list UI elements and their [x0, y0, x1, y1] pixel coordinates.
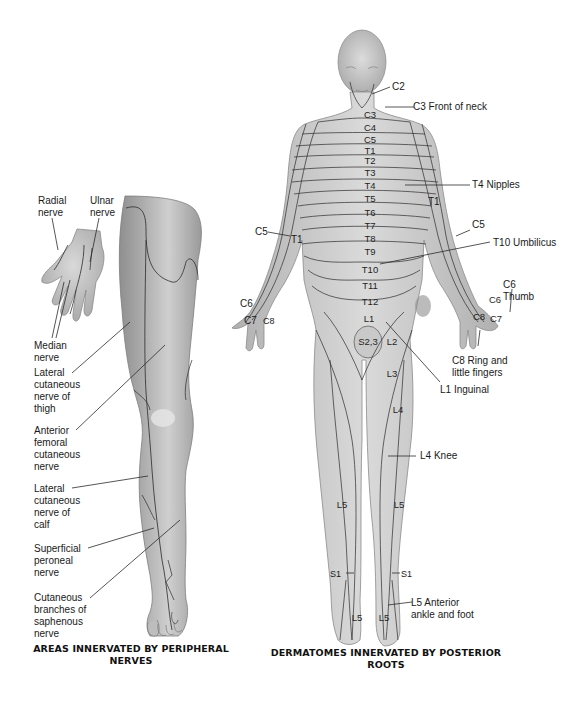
- label-sp-line2: peroneal: [34, 555, 81, 567]
- callout-s1-right-leg: S1: [401, 568, 412, 580]
- label-lct-line4: thigh: [34, 403, 80, 415]
- segment-l3: L3: [387, 369, 398, 379]
- callout-c6-left-hand: C6: [240, 298, 253, 310]
- callout-t1-left-arm: T1: [291, 234, 303, 246]
- segment-t3: T3: [364, 168, 375, 178]
- segment-l2: L2: [387, 337, 398, 347]
- label-superficial-peroneal: Superficial peroneal nerve: [34, 543, 81, 579]
- label-lcc-line2: cutaneous: [34, 495, 80, 507]
- callout-c2: C2: [392, 81, 405, 93]
- label-sb-line2: branches of: [34, 604, 86, 616]
- label-sp-line3: nerve: [34, 567, 81, 579]
- label-sp-line1: Superficial: [34, 543, 81, 555]
- left-caption: AREAS INNERVATED BY PERIPHERAL NERVES: [20, 643, 242, 667]
- segment-c5: C5: [364, 135, 376, 145]
- label-median-line1: Median: [34, 340, 67, 352]
- label-lateral-cutaneous-calf: Lateral cutaneous nerve of calf: [34, 483, 80, 531]
- callout-l5-anterior-ankle-foot: L5 Anterior ankle and foot: [411, 597, 474, 621]
- callout-c5-left-arm: C5: [255, 226, 268, 238]
- segment-c8-right-hand: C8: [473, 312, 485, 322]
- segment-l1: L1: [364, 314, 375, 324]
- callout-c7-left-hand: C7: [244, 315, 257, 327]
- anatomy-artwork: [0, 0, 585, 705]
- callout-c6-thumb: C6 Thumb: [503, 279, 534, 303]
- label-anterior-femoral: Anterior femoral cutaneous nerve: [34, 425, 80, 473]
- callout-l5-line2: ankle and foot: [411, 609, 474, 621]
- segment-t4: T4: [364, 181, 375, 191]
- label-lateral-cutaneous-thigh: Lateral cutaneous nerve of thigh: [34, 367, 80, 415]
- label-sb-line4: nerve: [34, 628, 86, 640]
- label-lct-line3: nerve of: [34, 391, 80, 403]
- label-median-line2: nerve: [34, 352, 67, 364]
- callout-c6-thumb-line1: C6: [503, 279, 534, 291]
- segment-l5-left-leg: L5: [337, 500, 348, 510]
- callout-t10-umbilicus: T10 Umbilicus: [493, 237, 556, 249]
- callout-c3-front-of-neck: C3 Front of neck: [413, 101, 487, 113]
- label-radial-line2: nerve: [38, 207, 66, 219]
- segment-t5: T5: [364, 194, 375, 204]
- label-lcc-line4: calf: [34, 519, 80, 531]
- callout-c8-line1: C8 Ring and: [452, 355, 508, 367]
- callout-t4-nipples: T4 Nipples: [472, 179, 520, 191]
- label-lct-line2: cutaneous: [34, 379, 80, 391]
- dermatome-figure: Radial nerve Ulnar nerve Median nerve La…: [0, 0, 585, 705]
- segment-l5-right-foot: L5: [379, 613, 390, 623]
- label-lcc-line1: Lateral: [34, 483, 80, 495]
- callout-l4-knee: L4 Knee: [420, 450, 457, 462]
- label-sb-line1: Cutaneous: [34, 592, 86, 604]
- label-median-nerve: Median nerve: [34, 340, 67, 364]
- label-ulnar-line1: Ulnar: [90, 195, 115, 207]
- label-afc-line1: Anterior: [34, 425, 80, 437]
- segment-t10: T10: [362, 265, 378, 275]
- callout-l1-inguinal: L1 Inguinal: [440, 384, 489, 396]
- label-afc-line3: cutaneous: [34, 449, 80, 461]
- segment-t12: T12: [362, 297, 378, 307]
- label-ulnar-line2: nerve: [90, 207, 115, 219]
- segment-t6: T6: [364, 208, 375, 218]
- segment-c7-right-hand: C7: [490, 314, 502, 324]
- segment-t11: T11: [362, 281, 378, 291]
- segment-l5-right-leg: L5: [394, 500, 405, 510]
- label-afc-line2: femoral: [34, 437, 80, 449]
- segment-c6-right-hand: C6: [489, 295, 501, 305]
- left-caption-line2: NERVES: [20, 655, 242, 667]
- segment-t2: T2: [364, 156, 375, 166]
- callout-c8-line2: little fingers: [452, 367, 508, 379]
- hand-illustration: [42, 218, 104, 338]
- segment-t9: T9: [364, 247, 375, 257]
- label-afc-line4: nerve: [34, 461, 80, 473]
- callout-t1-right-arm: T1: [428, 196, 440, 208]
- label-radial-line1: Radial: [38, 195, 66, 207]
- callout-c5-right-arm: C5: [472, 219, 485, 231]
- label-ulnar-nerve: Ulnar nerve: [90, 195, 115, 219]
- callout-c8-left-hand: C8: [263, 315, 275, 327]
- right-caption-line2: ROOTS: [262, 659, 510, 671]
- segment-t7: T7: [364, 221, 375, 231]
- segment-l4: L4: [393, 405, 404, 415]
- label-lct-line1: Lateral: [34, 367, 80, 379]
- callout-s1-left-leg: S1: [330, 568, 341, 580]
- left-caption-line1: AREAS INNERVATED BY PERIPHERAL: [20, 643, 242, 655]
- callout-l5-line1: L5 Anterior: [411, 597, 474, 609]
- right-caption: DERMATOMES INNERVATED BY POSTERIOR ROOTS: [262, 647, 510, 671]
- segment-s2-3: S2,3: [358, 337, 378, 347]
- segment-t8: T8: [364, 234, 375, 244]
- label-radial-nerve: Radial nerve: [38, 195, 66, 219]
- segment-c4: C4: [364, 123, 376, 133]
- callout-c8-ring-little-fingers: C8 Ring and little fingers: [452, 355, 508, 379]
- label-lcc-line3: nerve of: [34, 507, 80, 519]
- segment-c3: C3: [364, 110, 376, 120]
- label-sb-line3: saphenous: [34, 616, 86, 628]
- segment-l5-left-foot: L5: [352, 613, 363, 623]
- label-saphenous-branches: Cutaneous branches of saphenous nerve: [34, 592, 86, 640]
- right-caption-line1: DERMATOMES INNERVATED BY POSTERIOR: [262, 647, 510, 659]
- callout-c6-thumb-line2: Thumb: [503, 291, 534, 303]
